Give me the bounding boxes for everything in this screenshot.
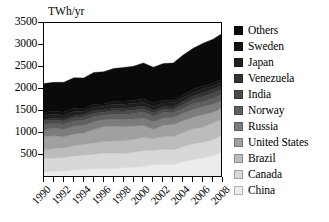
plot-area [43,22,222,176]
y-tick-mark [38,88,43,89]
plot-svg [44,23,222,176]
legend-entry-norway[interactable]: Norway [234,102,329,118]
legend-swatch-icon [234,186,243,195]
stacked-area-chart-figure: TWh/yr 500100015002000250030003500 19901… [0,0,329,222]
x-tick-mark [93,177,94,182]
x-tick-mark [73,177,74,182]
legend-label: China [248,184,275,196]
legend-swatch-icon [234,154,243,163]
legend-entry-united-states[interactable]: United States [234,134,329,150]
x-tick-mark [103,177,104,182]
legend-label: United States [248,136,308,148]
y-axis-labels: 500100015002000250030003500 [0,0,42,222]
chart-legend: OthersSwedenJapanVenezuelaIndiaNorwayRus… [234,22,329,198]
x-tick-mark [43,177,44,182]
legend-swatch-icon [234,26,243,35]
legend-swatch-icon [234,58,243,67]
legend-label: Venezuela [248,72,294,84]
legend-swatch-icon [234,42,243,51]
y-tick-label: 1500 [15,104,37,116]
legend-label: Brazil [248,152,276,164]
legend-label: Japan [248,56,274,68]
y-tick-label: 3500 [15,16,37,28]
legend-entry-russia[interactable]: Russia [234,118,329,134]
legend-swatch-icon [234,74,243,83]
x-tick-mark [182,177,183,182]
legend-entry-china[interactable]: China [234,182,329,198]
y-tick-mark [38,132,43,133]
x-tick-mark [212,177,213,182]
y-tick-label: 2000 [15,82,37,94]
x-tick-mark [142,177,143,182]
y-tick-label: 2500 [15,60,37,72]
legend-swatch-icon [234,122,243,131]
legend-label: Norway [248,104,284,116]
legend-label: Russia [248,120,278,132]
x-tick-mark [53,177,54,182]
axis-unit-title: TWh/yr [48,5,84,17]
legend-entry-india[interactable]: India [234,86,329,102]
x-tick-mark [222,177,223,182]
y-tick-label: 500 [20,148,37,160]
legend-entry-brazil[interactable]: Brazil [234,150,329,166]
y-tick-mark [38,22,43,23]
legend-entry-canada[interactable]: Canada [234,166,329,182]
legend-label: Sweden [248,40,284,52]
x-tick-mark [152,177,153,182]
x-tick-mark [192,177,193,182]
x-tick-mark [172,177,173,182]
legend-swatch-icon [234,90,243,99]
legend-label: Others [248,24,278,36]
x-tick-mark [123,177,124,182]
x-tick-mark [63,177,64,182]
legend-swatch-icon [234,106,243,115]
y-tick-mark [38,66,43,67]
y-tick-mark [38,154,43,155]
legend-entry-sweden[interactable]: Sweden [234,38,329,54]
legend-entry-venezuela[interactable]: Venezuela [234,70,329,86]
legend-entry-others[interactable]: Others [234,22,329,38]
y-tick-mark [38,44,43,45]
legend-label: India [248,88,271,100]
y-tick-label: 3000 [15,38,37,50]
x-tick-mark [113,177,114,182]
x-tick-mark [202,177,203,182]
legend-swatch-icon [234,138,243,147]
legend-entry-japan[interactable]: Japan [234,54,329,70]
legend-label: Canada [248,168,282,180]
x-tick-mark [83,177,84,182]
x-tick-mark [133,177,134,182]
y-tick-mark [38,110,43,111]
legend-swatch-icon [234,170,243,179]
x-tick-mark [162,177,163,182]
y-tick-label: 1000 [15,126,37,138]
